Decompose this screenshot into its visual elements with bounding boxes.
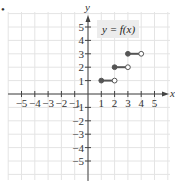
grid	[8, 12, 170, 180]
x-tick-label: −4	[29, 97, 41, 109]
y-tick-label: −4	[72, 142, 84, 154]
closed-endpoint	[99, 78, 104, 83]
step-function-graph: • y = f(x) −5−4−3−2−112345 −5−4−3−2−1123…	[0, 0, 175, 183]
x-tick-label: 1	[99, 97, 105, 109]
y-tick-label: −2	[72, 115, 84, 127]
open-endpoint	[126, 65, 131, 70]
x-tick-label: −3	[42, 97, 54, 109]
x-tick-label: 2	[112, 97, 118, 109]
open-endpoint	[139, 51, 144, 56]
y-tick-label: 5	[79, 21, 85, 33]
x-tick-label: 3	[125, 97, 131, 109]
y-tick-label: −1	[72, 101, 84, 113]
y-tick-label: −5	[72, 155, 84, 167]
y-tick-label: 2	[79, 61, 85, 73]
closed-endpoint	[112, 65, 117, 70]
bullet-marker: •	[1, 3, 5, 15]
closed-endpoint	[126, 51, 131, 56]
y-tick-label: 4	[79, 34, 85, 46]
x-tick-label: 4	[138, 97, 144, 109]
y-tick-label: 3	[79, 48, 85, 60]
function-label: y = f(x)	[101, 23, 135, 36]
y-tick-label: 1	[79, 75, 85, 87]
x-axis-label: x	[169, 87, 175, 99]
open-endpoint	[112, 78, 117, 83]
x-tick-label: 5	[152, 97, 158, 109]
y-axis-label: y	[84, 1, 90, 13]
x-tick-label: −5	[16, 97, 28, 109]
y-axis-arrow-icon	[86, 15, 91, 22]
y-tick-label: −3	[72, 128, 84, 140]
x-tick-label: −2	[56, 97, 68, 109]
